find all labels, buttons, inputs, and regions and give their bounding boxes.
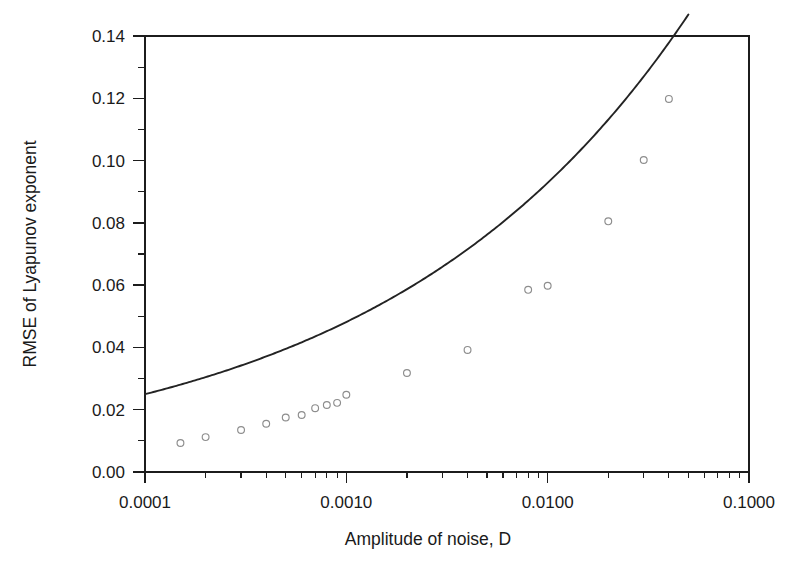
y-tick-label: 0.02 <box>92 401 125 420</box>
y-tick-label: 0.14 <box>92 27 125 46</box>
x-tick-label: 0.0010 <box>320 493 372 512</box>
y-tick-label: 0.08 <box>92 214 125 233</box>
y-axis-title: RMSE of Lyapunov exponent <box>20 140 40 367</box>
y-tick-label: 0.12 <box>92 89 125 108</box>
y-tick-label: 0.00 <box>92 463 125 482</box>
y-tick-label: 0.10 <box>92 152 125 171</box>
x-tick-label: 0.1000 <box>723 493 775 512</box>
y-tick-label: 0.06 <box>92 276 125 295</box>
x-tick-label: 0.0001 <box>119 493 171 512</box>
chart-figure: 0.00010.00100.01000.1000 0.000.020.040.0… <box>0 0 808 569</box>
y-tick-label: 0.04 <box>92 338 125 357</box>
x-axis-title: Amplitude of noise, D <box>345 529 511 549</box>
chart-plot-area: 0.00010.00100.01000.1000 0.000.020.040.0… <box>0 0 808 569</box>
x-tick-label: 0.0100 <box>522 493 574 512</box>
